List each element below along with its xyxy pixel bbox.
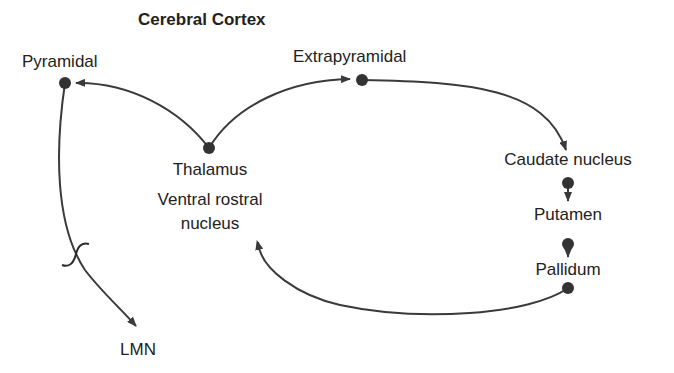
edge-thalamus-pyramidal [76, 83, 209, 148]
label-ventral-rostral-line1: Ventral rostral [158, 190, 263, 210]
diagram-title: Cerebral Cortex [138, 10, 266, 30]
label-pallidum: Pallidum [535, 260, 600, 280]
edge-pyramidal-lmn [59, 83, 136, 326]
decussation-mark-icon [62, 243, 89, 265]
label-lmn: LMN [120, 340, 156, 360]
label-caudate: Caudate nucleus [504, 150, 632, 170]
label-pyramidal: Pyramidal [22, 52, 98, 72]
edge-pallidum-ventral-rostral [258, 242, 568, 314]
edge-thalamus-extrapyramidal [209, 79, 350, 148]
node-dot-extrapyramidal [356, 74, 368, 86]
node-dot-pyramidal [59, 77, 71, 89]
node-dot-thalamus [203, 142, 215, 154]
label-thalamus: Thalamus [173, 160, 248, 180]
node-dot-pallidum [562, 282, 574, 294]
label-extrapyramidal: Extrapyramidal [293, 47, 406, 67]
node-dot-caudate [562, 177, 574, 189]
label-putamen: Putamen [534, 205, 602, 225]
label-ventral-rostral-line2: nucleus [181, 214, 240, 234]
edge-extrapyramidal-caudate [362, 80, 566, 150]
node-dot-putamen [562, 238, 574, 250]
